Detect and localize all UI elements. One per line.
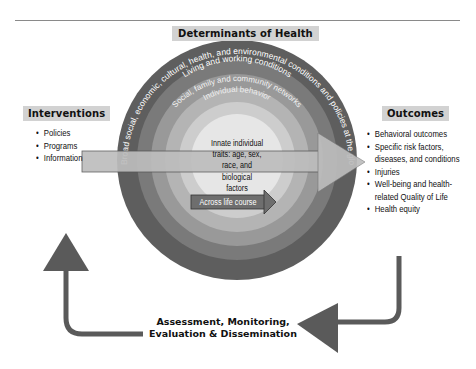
cycle-label-line: Assessment, Monitoring, xyxy=(148,316,298,328)
interventions-heading: Interventions xyxy=(23,106,110,121)
core-line: race, and xyxy=(199,160,276,171)
core-line: biological xyxy=(199,172,276,183)
outcomes-heading: Outcomes xyxy=(382,106,449,121)
return-arrow-right-shaft xyxy=(330,256,399,322)
core-line: traits: age, sex, xyxy=(199,149,276,160)
return-arrow-left-shaft xyxy=(66,268,143,334)
outcome-item: Specific risk factors, xyxy=(367,141,460,154)
interventions-list: Policies Programs Information xyxy=(36,127,82,165)
outcome-item: Injuries xyxy=(367,166,460,179)
cycle-label-line: Evaluation & Dissemination xyxy=(148,328,298,340)
outcome-item-continued: related Quality of Life xyxy=(367,191,460,204)
return-arrow-right-head xyxy=(297,303,338,353)
return-arrow-left-head xyxy=(43,233,89,271)
core-traits-text: Innate individual traits: age, sex, race… xyxy=(199,138,276,194)
intervention-item: Information xyxy=(36,152,82,165)
outcome-item-continued: diseases, and conditions xyxy=(367,153,460,166)
assessment-cycle-label: Assessment, Monitoring, Evaluation & Dis… xyxy=(148,316,298,340)
outcome-item: Health equity xyxy=(367,203,460,216)
intervention-item: Programs xyxy=(36,140,82,153)
life-course-label: Across life course xyxy=(197,197,258,208)
core-line: Innate individual xyxy=(199,138,276,149)
intervention-item: Policies xyxy=(36,127,82,140)
outcome-item: Well-being and health- xyxy=(367,178,460,191)
diagram-title: Determinants of Health xyxy=(172,26,319,41)
core-line: factors xyxy=(199,183,276,194)
outcomes-list: Behavioral outcomes Specific risk factor… xyxy=(367,128,460,216)
outcome-item: Behavioral outcomes xyxy=(367,128,460,141)
